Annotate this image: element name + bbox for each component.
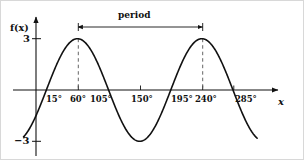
x-tick-label-60: 60° xyxy=(70,95,86,104)
y-tick-label-minus-3: −3 xyxy=(14,136,29,146)
x-tick-label-15: 15° xyxy=(46,95,62,104)
y-tick-label-3: 3 xyxy=(23,34,30,44)
x-tick-label-195: 195° xyxy=(171,95,193,104)
x-tick-label-150: 150° xyxy=(131,95,153,104)
x-tick-label-285: 285° xyxy=(235,95,257,104)
period-annotation-label: period xyxy=(118,11,150,20)
sine-graph-figure: f(x) 3 −3 15° 60° 105° 150° 195° 240° 28… xyxy=(0,0,304,160)
y-axis-label: f(x) xyxy=(10,23,29,33)
x-axis-label: x xyxy=(278,97,284,107)
plot-canvas xyxy=(1,1,304,160)
x-tick-label-240: 240° xyxy=(195,95,217,104)
x-tick-label-105: 105° xyxy=(90,95,112,104)
